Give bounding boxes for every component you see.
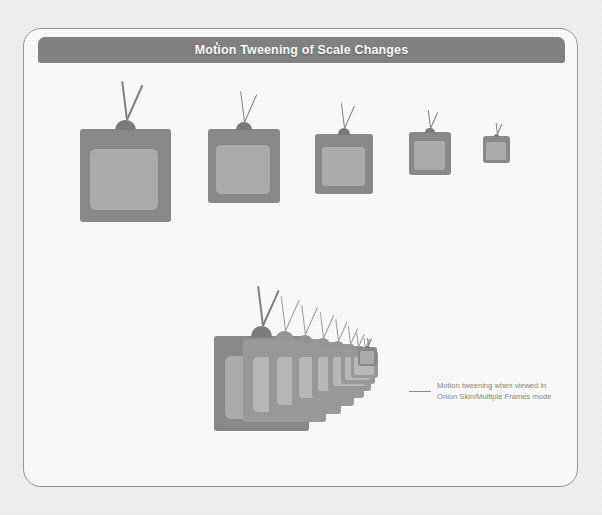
tv-antenna-hub: [115, 120, 135, 130]
figure-card: Motion Tweening of Scale Changes Motion …: [23, 28, 578, 487]
tv-antenna-right: [244, 94, 257, 122]
tv-antenna-left: [240, 91, 245, 122]
tv-screen: [322, 147, 365, 187]
tv-screen: [414, 141, 445, 169]
tv-screen: [360, 351, 374, 364]
tv-antenna-hub: [425, 128, 434, 133]
tv-graphic: [409, 109, 451, 175]
callout-line-1: Motion tweening when viewed in: [437, 381, 587, 392]
title-bullet-mark: [216, 42, 218, 45]
tv-graphic: [483, 122, 510, 163]
callout-line-2: Onion Skin/Multiple Frames mode: [437, 392, 587, 403]
tv-graphic: [358, 337, 377, 366]
figure-screenshot: Motion Tweening of Scale Changes Motion …: [0, 0, 602, 515]
tv-antenna-hub: [338, 128, 351, 135]
tv-screen: [216, 145, 269, 194]
figure-title-bar: Motion Tweening of Scale Changes: [38, 37, 565, 63]
tv-antenna-hub: [365, 346, 369, 348]
tv-antenna-right: [126, 85, 143, 120]
tv-graphic: [80, 80, 171, 222]
tv-screen: [486, 142, 506, 160]
tv-graphic: [315, 102, 373, 194]
tv-antenna-right: [344, 106, 355, 129]
tv-graphic: [208, 90, 280, 203]
tv-antenna-right: [430, 112, 438, 128]
tv-screen: [90, 149, 157, 210]
tv-antenna-left: [121, 81, 128, 120]
callout-label: Motion tweening when viewed in Onion Ski…: [437, 381, 587, 402]
callout-leader-line: [409, 391, 431, 392]
tv-antenna-hub: [236, 122, 252, 130]
figure-title: Motion Tweening of Scale Changes: [195, 43, 409, 57]
